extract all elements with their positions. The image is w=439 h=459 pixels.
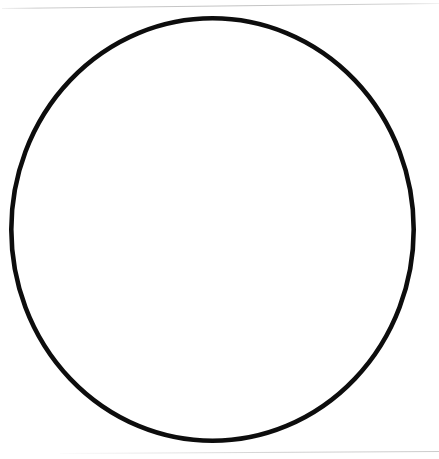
- circle-svg: [0, 0, 439, 459]
- circle-outline-shape: [11, 18, 413, 440]
- circle-figure: [0, 0, 439, 459]
- scanned-page: [0, 0, 439, 459]
